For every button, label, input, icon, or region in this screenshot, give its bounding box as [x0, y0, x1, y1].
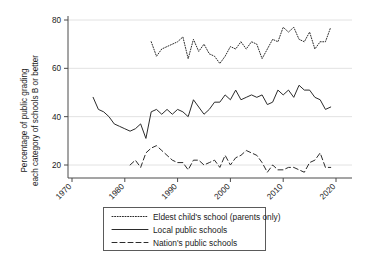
chart-figure: Percentage of public grading each catego… [0, 0, 366, 264]
x-axis: 197019801990200020102020 [54, 178, 352, 201]
y-axis-title-line1: Percentage of public grading [20, 55, 31, 186]
data-series-layer [93, 27, 331, 172]
x-tick-label-2000: 2000 [213, 182, 233, 202]
y-axis-title: Percentage of public grading each catego… [0, 0, 60, 190]
series-line-0 [151, 27, 331, 63]
chart-legend: Eldest child's school (parents only)Loca… [104, 208, 281, 251]
series-line-2 [130, 146, 331, 173]
x-tick-label-2010: 2010 [265, 182, 285, 202]
x-tick-label-1980: 1980 [107, 182, 127, 202]
series-line-1 [93, 85, 331, 138]
y-axis-title-line2: each category of schools B or better [31, 55, 42, 186]
legend-label-1: Local public schools [153, 225, 227, 235]
x-tick-label-2020: 2020 [318, 182, 338, 202]
x-tick-label-1990: 1990 [160, 182, 180, 202]
legend-label-2: Nation's public schools [153, 238, 237, 248]
gridlines [68, 20, 352, 165]
legend-label-0: Eldest child's school (parents only) [153, 212, 281, 222]
